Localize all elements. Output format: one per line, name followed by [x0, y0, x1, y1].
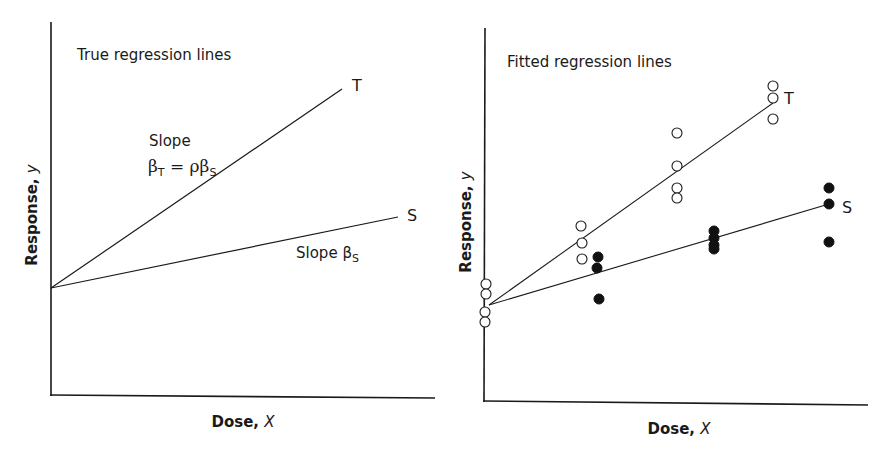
filled-circle-marker — [593, 252, 603, 262]
left-x-axis — [50, 395, 435, 398]
open-circle-marker — [480, 307, 490, 317]
right-x-axis-label: Dose, X — [647, 420, 711, 438]
filled-circle-marker — [824, 183, 834, 193]
open-circle-marker — [481, 279, 491, 289]
right-label-S: S — [842, 198, 852, 217]
open-circle-marker — [481, 289, 491, 299]
open-circle-marker — [576, 221, 586, 231]
left-panel: True regression lines T S Slope βT = ρβS… — [23, 22, 435, 431]
open-circle-marker — [672, 193, 682, 203]
figure: True regression lines T S Slope βT = ρβS… — [0, 0, 884, 459]
open-circle-marker — [577, 238, 587, 248]
open-circle-marker — [577, 254, 587, 264]
left-panel-title: True regression lines — [76, 46, 232, 64]
filled-circle-marker — [592, 263, 602, 273]
left-y-axis-label: Response, y — [23, 163, 41, 265]
right-fit-line-T — [489, 103, 773, 305]
slope-T-word: Slope — [149, 132, 191, 150]
open-circle-marker — [768, 81, 778, 91]
open-circle-marker — [768, 114, 778, 124]
slope-S-sub: S — [352, 252, 359, 265]
slope-T-equation: βT = ρβS — [148, 156, 216, 179]
right-panel: Fitted regression lines — [457, 28, 868, 438]
open-circle-marker — [768, 93, 778, 103]
open-circle-marker — [672, 128, 682, 138]
beta-symbol: β — [148, 156, 158, 176]
right-panel-title: Fitted regression lines — [507, 53, 672, 71]
left-label-S: S — [407, 206, 417, 225]
right-fit-line-S — [489, 204, 829, 305]
left-x-axis-label: Dose, X — [211, 413, 275, 431]
slope-S-annotation: Slope βS — [296, 244, 359, 265]
right-y-axis — [484, 28, 485, 402]
right-y-axis-label: Response, y — [457, 170, 475, 272]
open-circle-marker — [480, 317, 490, 327]
slope-S-base: Slope β — [296, 244, 352, 262]
filled-circle-marker — [824, 199, 834, 209]
filled-circle-marker — [824, 237, 834, 247]
right-x-axis — [483, 401, 868, 405]
open-circle-marker — [672, 161, 682, 171]
open-circle-marker — [672, 183, 682, 193]
open-markers-T — [480, 81, 778, 327]
eq-mid: = ρβ — [165, 156, 210, 176]
filled-circle-marker — [594, 294, 604, 304]
left-label-T: T — [351, 76, 362, 95]
filled-markers-S — [592, 183, 834, 304]
right-label-T: T — [783, 89, 794, 108]
sub-S: S — [209, 166, 216, 179]
filled-circle-marker — [709, 244, 719, 254]
